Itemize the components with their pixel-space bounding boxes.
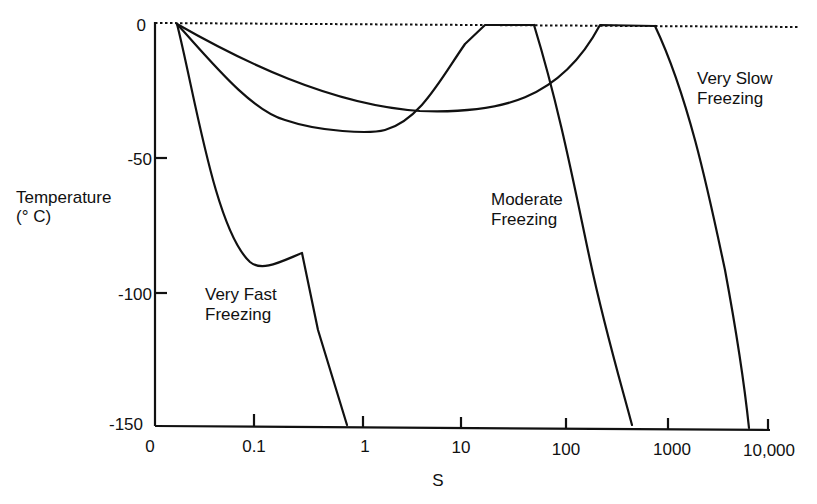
- label-very-slow-line1: Very Slow: [697, 69, 773, 88]
- label-very-fast-line1: Very Fast: [205, 285, 277, 304]
- x-tick-label-10: 10: [452, 438, 471, 457]
- x-tick-label-100: 100: [552, 440, 580, 459]
- x-tick-label-1: 1: [360, 437, 369, 456]
- y-axis-title-line1: Temperature: [16, 188, 111, 207]
- y-axis-title-line2: (° C): [16, 207, 51, 226]
- label-very-slow-line2: Freezing: [697, 89, 763, 108]
- x-tick-label-10000: 10,000: [743, 441, 795, 460]
- freezing-curve-chart: 0 -50 -100 -150 Temperature (° C) 0 0.1 …: [0, 0, 817, 504]
- curve-fast-freezing: [177, 24, 534, 132]
- x-tick-label-0: 0: [145, 437, 154, 456]
- zero-reference-line: [155, 23, 800, 27]
- y-tick-label-0: 0: [137, 16, 146, 35]
- x-axis: [155, 426, 770, 430]
- label-moderate-line2: Freezing: [491, 210, 557, 229]
- x-tick-label-0.1: 0.1: [242, 437, 266, 456]
- y-tick-label-minus150: -150: [109, 415, 143, 434]
- y-tick-label-minus100: -100: [118, 285, 152, 304]
- label-moderate-line1: Moderate: [491, 190, 563, 209]
- curve-very-fast-freezing: [177, 24, 347, 425]
- label-very-fast-line2: Freezing: [205, 305, 271, 324]
- x-axis-title: S: [432, 471, 443, 490]
- x-tick-label-1000: 1000: [653, 440, 691, 459]
- y-tick-label-minus50: -50: [127, 150, 152, 169]
